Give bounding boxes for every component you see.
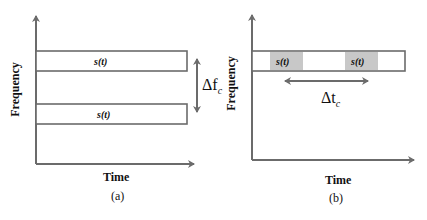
panel-b-delta-t-label: Δtc bbox=[321, 89, 340, 109]
panel-b-y-axis-label: Frequency bbox=[224, 54, 239, 114]
panel-a-signal-label-top: s(t) bbox=[94, 56, 107, 67]
panel-a-signal-band-top bbox=[36, 51, 187, 71]
panel-a-axes bbox=[36, 16, 194, 164]
panel-a-y-axis-label: Frequency bbox=[8, 60, 23, 120]
panel-a-delta-f-label: Δfc bbox=[202, 76, 222, 96]
panel-b-signal-label-1: s(t) bbox=[276, 56, 289, 67]
panel-a-x-axis-label: Time bbox=[103, 170, 129, 185]
panel-a-signal-band-bottom bbox=[36, 104, 187, 124]
panel-b-x-axis-label: Time bbox=[325, 173, 351, 188]
panel-b-axes bbox=[252, 15, 414, 160]
panel-b-caption: (b) bbox=[329, 191, 343, 206]
panel-a-signal-label-bottom: s(t) bbox=[97, 109, 110, 120]
diagram-canvas bbox=[0, 0, 427, 220]
panel-b-signal-label-2: s(t) bbox=[351, 56, 364, 67]
panel-a-caption: (a) bbox=[111, 189, 124, 204]
